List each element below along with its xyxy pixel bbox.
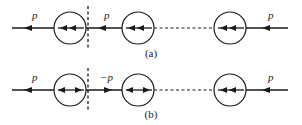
momentum-label-left-a: p	[31, 9, 38, 21]
arrow-left-icon	[126, 87, 133, 93]
diagram-canvas: p p p (a) p	[0, 0, 302, 125]
arrow-left-icon	[69, 25, 76, 31]
momentum-label-middle-a: p	[103, 9, 110, 21]
arrow-left-icon	[262, 87, 270, 93]
arrow-left-icon	[128, 25, 135, 31]
arrow-left-icon	[137, 25, 144, 31]
arrow-left-icon	[229, 87, 236, 93]
arrow-left-icon	[24, 87, 32, 93]
panel-b: p −p p (b)	[12, 68, 288, 121]
arrow-left-icon	[24, 25, 32, 31]
arrow-left-icon	[58, 87, 65, 93]
momentum-label-middle-b: −p	[100, 71, 113, 83]
momentum-label-right-b: p	[267, 71, 274, 83]
arrow-right-icon	[143, 87, 150, 93]
arrow-left-icon	[262, 25, 270, 31]
caption-a: (a)	[145, 47, 158, 60]
momentum-label-left-b: p	[31, 71, 38, 83]
arrow-left-icon	[220, 25, 227, 31]
caption-b: (b)	[145, 108, 158, 121]
arrow-right-icon	[104, 87, 112, 93]
panel-a: p p p (a)	[12, 6, 288, 60]
arrow-left-icon	[229, 25, 236, 31]
arrow-left-icon	[60, 25, 67, 31]
arrow-right-icon	[75, 87, 82, 93]
arrow-left-icon	[98, 25, 106, 31]
arrow-left-icon	[220, 87, 227, 93]
momentum-label-right-a: p	[267, 9, 274, 21]
